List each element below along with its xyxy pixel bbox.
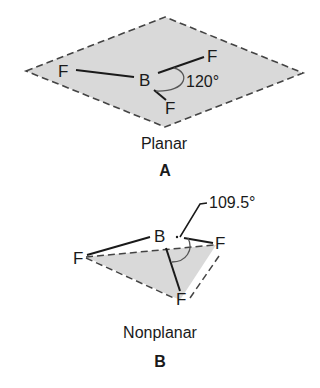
panel-label-b: B — [154, 353, 166, 370]
atom-f-bottom: F — [165, 99, 175, 118]
angle-label-120: 120° — [186, 73, 219, 90]
diagram-canvas: F B F F 120° Planar A — [0, 0, 320, 388]
angle-leader-line — [180, 203, 207, 237]
caption-planar: Planar — [141, 135, 188, 152]
atom-f-right: F — [215, 234, 225, 253]
atom-f-upper-right: F — [207, 47, 217, 66]
b-dot — [176, 236, 178, 238]
panel-a: F B F F 120° Planar A — [26, 17, 303, 179]
atom-f-left: F — [73, 249, 83, 268]
atom-b-central: B — [139, 71, 150, 90]
atom-b-central: B — [154, 227, 165, 246]
caption-nonplanar: Nonplanar — [123, 324, 198, 341]
bf3-geometry-figure: F B F F 120° Planar A — [0, 0, 320, 388]
nonplanar-base-triangle — [86, 245, 216, 300]
angle-label-109-5: 109.5° — [209, 194, 255, 211]
atom-f-left: F — [58, 62, 68, 81]
atom-f-bottom: F — [176, 290, 186, 309]
panel-label-a: A — [159, 162, 171, 179]
panel-b: B F F F 109.5° Nonplanar B — [73, 194, 255, 370]
